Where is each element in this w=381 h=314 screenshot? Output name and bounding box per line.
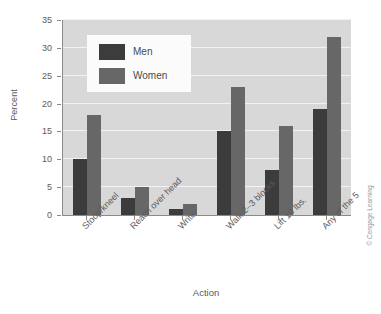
bar-men bbox=[217, 131, 231, 215]
legend-swatch-women bbox=[99, 68, 125, 84]
copyright-credit: © Cengage Learning bbox=[366, 168, 373, 264]
bar-women bbox=[87, 115, 101, 215]
y-axis-tick-mark bbox=[57, 187, 61, 188]
y-axis-tick-mark bbox=[57, 76, 61, 77]
gridline bbox=[63, 19, 351, 20]
y-axis-tick-label: 15 bbox=[28, 126, 52, 136]
y-axis-tick-label: 20 bbox=[28, 99, 52, 109]
y-axis-tick-label: 30 bbox=[28, 43, 52, 53]
y-axis-tick-mark bbox=[57, 48, 61, 49]
chart-legend: MenWomen bbox=[87, 35, 191, 92]
legend-label: Women bbox=[133, 70, 167, 81]
gridline bbox=[63, 158, 351, 159]
bar-men bbox=[313, 109, 327, 215]
gridline bbox=[63, 130, 351, 131]
y-axis-tick-mark bbox=[57, 131, 61, 132]
y-axis-tick-label: 25 bbox=[28, 71, 52, 81]
y-axis-tick-mark bbox=[57, 20, 61, 21]
bar-women bbox=[279, 126, 293, 215]
bar-women bbox=[231, 87, 245, 215]
gridline bbox=[63, 103, 351, 104]
bar-men bbox=[169, 209, 183, 215]
y-axis-title: Percent bbox=[9, 75, 19, 135]
y-axis-tick-label: 35 bbox=[28, 15, 52, 25]
y-axis-tick-label: 10 bbox=[28, 154, 52, 164]
bar-men bbox=[121, 198, 135, 215]
y-axis-tick-mark bbox=[57, 159, 61, 160]
gridline bbox=[63, 186, 351, 187]
y-axis-tick-label: 5 bbox=[28, 182, 52, 192]
bar-men bbox=[73, 159, 87, 215]
y-axis-tick-mark bbox=[57, 215, 61, 216]
y-axis-tick-mark bbox=[57, 104, 61, 105]
y-axis-tick-label: 0 bbox=[28, 210, 52, 220]
x-axis-title: Action bbox=[62, 287, 350, 298]
bar-chart-figure: Percent 05101520253035 Stoop/kneelReach … bbox=[0, 0, 381, 314]
bar-women bbox=[327, 37, 341, 215]
legend-swatch-men bbox=[99, 44, 125, 60]
legend-label: Men bbox=[133, 46, 152, 57]
